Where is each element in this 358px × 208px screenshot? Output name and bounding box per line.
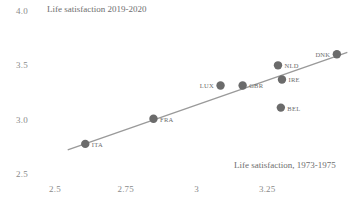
- data-point-lux[interactable]: [216, 81, 224, 89]
- point-label-bel: BEL: [287, 104, 300, 111]
- x-tick-2.75: 2.75: [117, 184, 134, 194]
- x-axis-title: Life satisfaction, 1973-1975: [234, 160, 336, 170]
- point-label-nld: NLD: [285, 62, 299, 69]
- x-tick-3: 3: [194, 184, 199, 194]
- data-point-ita[interactable]: [81, 140, 89, 148]
- y-tick-3.5: 3.5: [16, 60, 28, 70]
- data-point-fra[interactable]: [149, 114, 157, 122]
- chart-title: Life satisfaction 2019-2020: [47, 4, 146, 14]
- trend-line: [68, 52, 348, 150]
- y-tick-2.5: 2.5: [16, 169, 28, 179]
- x-tick-2.5: 2.5: [49, 184, 61, 194]
- point-label-ire: IRE: [288, 76, 299, 83]
- data-points-group: [81, 50, 341, 148]
- point-label-dnk: DNK: [315, 51, 330, 58]
- data-point-gbr[interactable]: [238, 81, 246, 89]
- point-label-lux: LUX: [200, 82, 214, 89]
- data-point-dnk[interactable]: [333, 50, 341, 58]
- data-point-bel[interactable]: [277, 103, 285, 111]
- point-label-gbr: GBR: [249, 82, 263, 89]
- point-label-ita: ITA: [92, 140, 103, 147]
- plot-area: [0, 0, 358, 208]
- scatter-chart: 2.53.03.54.0 2.52.7533.25 ITAFRALUXGBRNL…: [0, 0, 358, 208]
- point-label-fra: FRA: [160, 115, 174, 122]
- y-tick-3.0: 3.0: [16, 115, 28, 125]
- data-point-ire[interactable]: [278, 75, 286, 83]
- x-tick-3.25: 3.25: [259, 184, 276, 194]
- data-point-nld[interactable]: [274, 61, 282, 69]
- y-tick-4.0: 4.0: [16, 6, 28, 16]
